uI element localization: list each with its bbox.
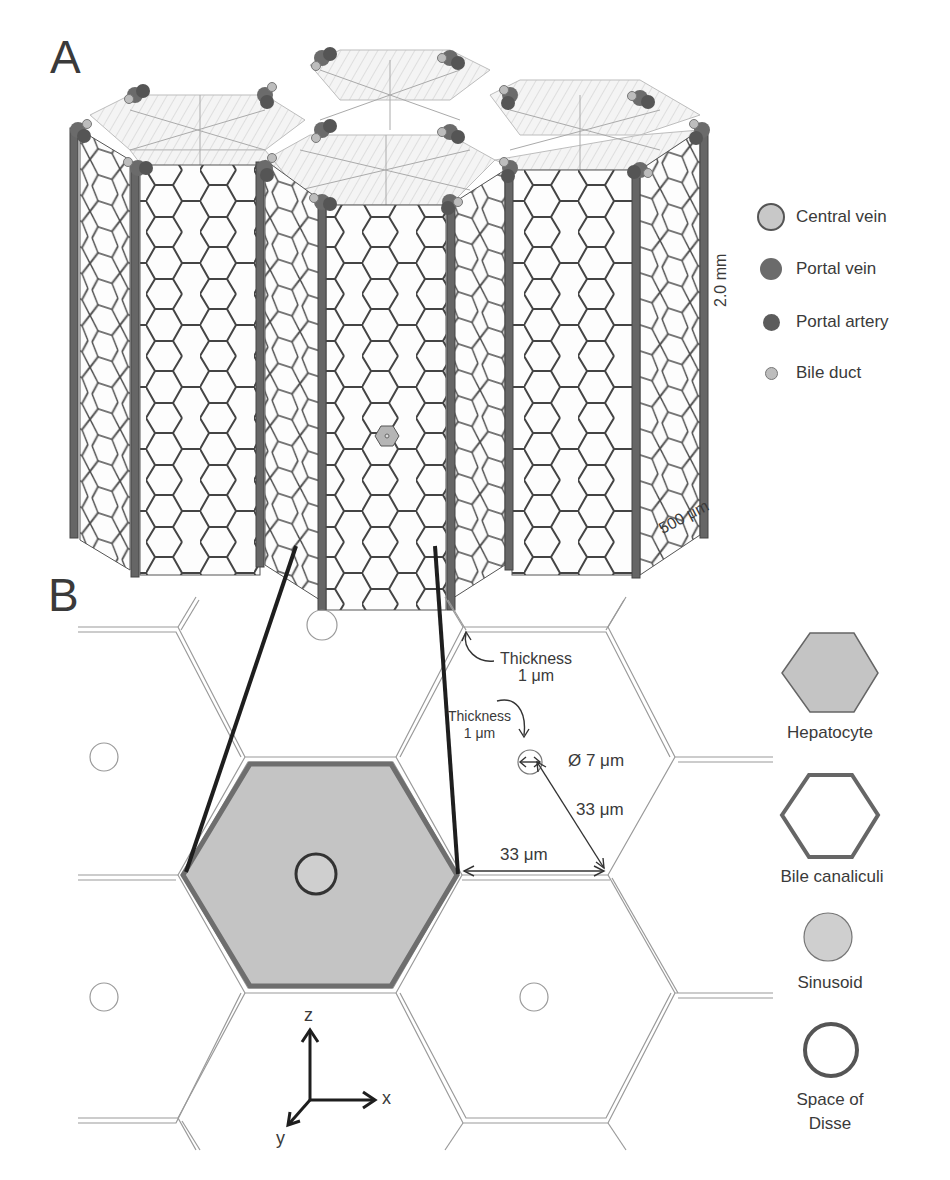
annotation-title: Thickness xyxy=(500,650,572,667)
axis-y-label: y xyxy=(276,1128,285,1149)
legend-item-bile-duct: Bile duct xyxy=(756,358,861,388)
legend-space-of-disse: Space of Disse xyxy=(750,1088,910,1136)
legend-label: Bile duct xyxy=(796,363,861,383)
annotation-title: Thickness xyxy=(448,708,511,725)
bile-duct-icon xyxy=(765,367,778,380)
legend-label: Portal vein xyxy=(796,259,876,279)
diameter-label: Ø 7 μm xyxy=(568,751,624,771)
legend-label-line: Space of xyxy=(750,1088,910,1112)
legend-sinusoid: Sinusoid xyxy=(750,973,910,993)
legend-b-shapes xyxy=(782,633,878,1076)
sinusoid-center xyxy=(296,854,336,894)
portal-vein-icon xyxy=(760,258,782,280)
annotation-value: 1 μm xyxy=(448,725,511,742)
legend-bile-canaliculi: Bile canaliculi xyxy=(752,867,912,887)
portal-artery-icon xyxy=(763,314,780,331)
legend-label-line: Disse xyxy=(750,1112,910,1136)
annotation-disse-thickness: Thickness 1 μm xyxy=(448,708,511,742)
coordinate-axes xyxy=(288,1030,375,1125)
axis-z-label: z xyxy=(304,1005,313,1026)
legend-item-portal-vein: Portal vein xyxy=(756,254,876,284)
edge-distance-label: 33 μm xyxy=(500,845,548,865)
annotation-value: 1 μm xyxy=(500,667,572,684)
annotation-wall-thickness: Thickness 1 μm xyxy=(500,650,572,684)
liver-lobule-diagram xyxy=(0,0,950,1180)
central-vein-icon xyxy=(757,203,785,231)
legend-hepatocyte: Hepatocyte xyxy=(750,723,910,743)
legend-item-central-vein: Central vein xyxy=(756,202,887,232)
radius-distance-label: 33 μm xyxy=(576,800,624,820)
legend-item-portal-artery: Portal artery xyxy=(756,307,889,337)
legend-label: Central vein xyxy=(796,207,887,227)
legend-label: Portal artery xyxy=(796,312,889,332)
scale-vertical: 2.0 mm xyxy=(712,254,730,307)
axis-x-label: x xyxy=(382,1088,391,1109)
lobule-prisms-3d xyxy=(70,47,710,610)
